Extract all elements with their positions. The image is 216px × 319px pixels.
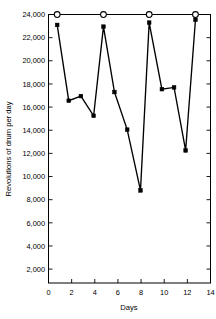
y-tick-label: 20,000 [22, 56, 45, 65]
x-tick-label: 14 [206, 288, 214, 297]
data-point [55, 23, 59, 27]
y-tick-label: 12,000 [22, 149, 45, 158]
data-point [113, 90, 117, 94]
x-tick-label: 12 [183, 288, 191, 297]
data-point [147, 21, 151, 25]
y-tick-label: 18,000 [22, 80, 45, 89]
x-tick-label: 8 [139, 288, 143, 297]
y-tick-label: 4,000 [27, 242, 46, 251]
open-circle-marker [193, 12, 199, 18]
x-axis-title: Days [120, 303, 138, 312]
data-point [102, 25, 106, 29]
x-tick-label: 2 [70, 288, 74, 297]
data-point [79, 94, 83, 98]
data-point [92, 114, 96, 118]
y-tick-label: 16,000 [22, 103, 45, 112]
x-tick-label: 0 [46, 288, 50, 297]
data-point [160, 87, 164, 91]
data-point [67, 99, 71, 103]
y-tick-label: 6,000 [27, 219, 46, 228]
chart-container: 2,0004,0006,0008,00010,00012,00014,00016… [0, 0, 216, 319]
y-tick-label: 22,000 [22, 33, 45, 42]
x-tick-label: 10 [160, 288, 168, 297]
y-tick-label: 14,000 [22, 126, 45, 135]
data-point [194, 18, 198, 22]
data-point [184, 149, 188, 153]
x-tick-label: 6 [116, 288, 120, 297]
x-tick-label: 4 [93, 288, 97, 297]
data-point [125, 128, 129, 132]
data-point [172, 86, 176, 90]
open-circle-marker [101, 12, 107, 18]
data-point [139, 189, 143, 193]
y-axis-title: Revolutions of drum per day [4, 101, 13, 196]
open-circle-marker [146, 12, 152, 18]
y-tick-label: 2,000 [27, 265, 46, 274]
line-chart: 2,0004,0006,0008,00010,00012,00014,00016… [0, 0, 216, 319]
open-circle-marker [54, 12, 60, 18]
y-tick-label: 24,000 [22, 10, 45, 19]
y-tick-label: 10,000 [22, 172, 45, 181]
y-tick-label: 8,000 [27, 195, 46, 204]
